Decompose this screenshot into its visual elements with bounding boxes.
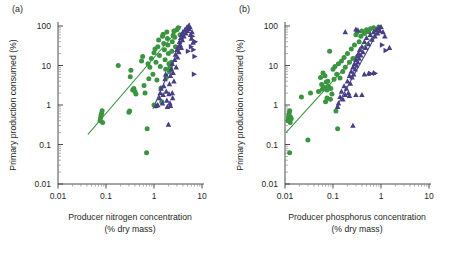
- data-point: [345, 51, 350, 56]
- data-point: [145, 126, 150, 131]
- y-tick-label: 0.01: [261, 179, 278, 189]
- data-point: [150, 72, 155, 77]
- data-point: [164, 30, 169, 35]
- figure-container: (a) 0.010.11100.010.1110100Producer nitr…: [0, 0, 453, 254]
- data-point: [329, 91, 334, 96]
- data-point: [328, 86, 333, 91]
- data-point: [149, 56, 154, 61]
- x-tick-label: 0.1: [327, 191, 339, 201]
- y-tick-label: 1: [273, 100, 278, 110]
- data-point: [163, 57, 168, 62]
- data-point: [333, 109, 338, 114]
- data-point: [167, 81, 173, 86]
- panel-a-svg: 0.010.11100.010.1110100Producer nitrogen…: [0, 0, 226, 254]
- data-point: [380, 42, 385, 48]
- data-point: [353, 92, 359, 97]
- data-point: [165, 43, 170, 48]
- y-tick-label: 100: [264, 21, 278, 31]
- data-point: [340, 69, 345, 74]
- data-point: [322, 73, 327, 78]
- data-point: [100, 120, 105, 125]
- data-point: [347, 60, 352, 65]
- data-point: [332, 77, 337, 82]
- data-point: [334, 72, 339, 77]
- data-point: [387, 45, 393, 50]
- data-point: [342, 55, 347, 60]
- data-point: [176, 25, 181, 30]
- data-point: [352, 43, 357, 48]
- data-point: [287, 150, 292, 155]
- data-point: [192, 72, 197, 78]
- data-point: [305, 137, 310, 142]
- data-point: [343, 65, 348, 70]
- panel-a-plot: 0.010.11100.010.1110100Producer nitrogen…: [0, 0, 226, 254]
- data-point: [338, 76, 343, 81]
- data-point: [156, 38, 161, 43]
- data-point: [335, 126, 340, 131]
- data-point: [140, 54, 145, 59]
- x-tick-label: 1: [379, 191, 384, 201]
- data-point: [158, 64, 163, 69]
- x-axis-title-line1: Producer phosphorus concentration: [288, 212, 426, 222]
- data-point: [153, 60, 158, 65]
- data-point: [325, 79, 330, 84]
- data-point: [328, 97, 333, 102]
- panel-b-plot: 0.010.11100.010.1110100Producer phosphor…: [227, 0, 453, 254]
- data-point: [128, 74, 133, 79]
- panel-b-svg: 0.010.11100.010.1110100Producer phosphor…: [227, 0, 453, 254]
- data-point: [318, 75, 323, 80]
- y-axis-title: Primary production consumed (%): [8, 39, 18, 170]
- y-tick-label: 0.1: [39, 140, 51, 150]
- data-point: [116, 63, 121, 68]
- data-point: [171, 78, 177, 83]
- x-tick-label: 0.1: [100, 191, 112, 201]
- data-point: [170, 39, 175, 44]
- data-point: [169, 49, 174, 54]
- data-point: [339, 88, 345, 93]
- data-point: [289, 116, 294, 121]
- y-tick-label: 0.1: [266, 140, 278, 150]
- data-point: [100, 108, 105, 113]
- data-point: [172, 35, 177, 40]
- data-point: [143, 91, 148, 96]
- data-point: [139, 58, 144, 63]
- x-axis-title-line2: (% dry mass): [104, 224, 155, 234]
- data-point: [373, 70, 378, 76]
- data-point: [166, 122, 172, 127]
- data-point: [190, 33, 195, 39]
- data-point: [147, 65, 152, 70]
- x-tick-label: 0.01: [277, 191, 294, 201]
- data-point: [155, 44, 160, 49]
- y-tick-label: 10: [269, 61, 279, 71]
- data-point: [308, 91, 313, 96]
- data-point: [192, 54, 197, 60]
- data-point: [169, 90, 175, 95]
- y-tick-label: 1: [46, 100, 51, 110]
- y-tick-label: 10: [42, 61, 52, 71]
- x-axis-title-line2: (% dry mass): [331, 224, 382, 234]
- y-tick-label: 0.01: [34, 179, 51, 189]
- panel-a: (a) 0.010.11100.010.1110100Producer nitr…: [0, 0, 226, 254]
- x-tick-label: 1: [152, 191, 157, 201]
- data-point: [287, 108, 292, 113]
- x-tick-label: 10: [424, 191, 434, 201]
- data-point: [359, 92, 365, 97]
- data-point: [186, 48, 191, 54]
- data-point: [357, 39, 362, 44]
- data-point: [346, 90, 352, 95]
- data-point: [162, 47, 167, 52]
- data-point: [165, 36, 170, 41]
- x-axis-title-line1: Producer nitrogen concentration: [68, 212, 192, 222]
- data-point: [128, 68, 133, 73]
- data-point: [349, 47, 354, 52]
- data-point: [191, 47, 196, 53]
- data-point: [142, 83, 147, 88]
- y-tick-label: 100: [37, 21, 51, 31]
- data-point: [299, 94, 304, 99]
- data-point: [164, 97, 170, 102]
- data-point: [157, 53, 162, 58]
- data-point: [350, 123, 356, 128]
- data-point: [342, 29, 348, 34]
- data-point: [146, 76, 151, 81]
- data-point: [144, 150, 149, 155]
